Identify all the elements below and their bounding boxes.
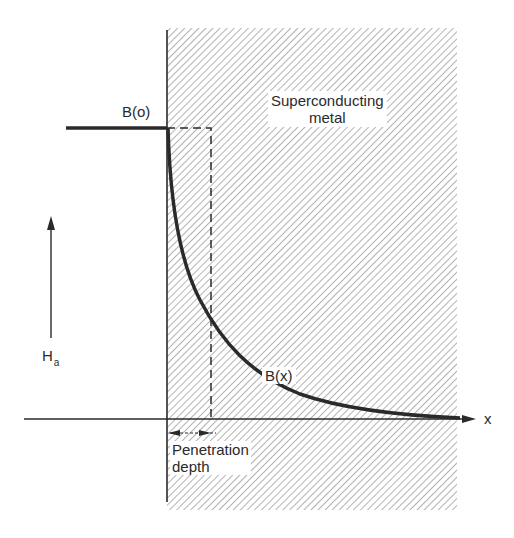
penetration-label-line2: depth <box>172 458 249 475</box>
region-label-line1: Superconducting <box>271 92 384 109</box>
applied-field-arrowhead-icon <box>47 216 55 230</box>
penetration-label-line1: Penetration <box>172 441 249 458</box>
surface-field-label: B(o) <box>122 104 150 119</box>
diagram-canvas <box>0 0 514 538</box>
x-axis-arrowhead-icon <box>462 415 476 423</box>
applied-field-label: Ha <box>42 348 59 363</box>
internal-field-label: B(x) <box>262 367 296 384</box>
penetration-depth-label: Penetration depth <box>170 441 251 475</box>
region-label: Superconducting metal <box>268 91 387 127</box>
applied-field-symbol: H <box>42 347 53 364</box>
x-axis-label: x <box>484 411 492 426</box>
region-label-line2: metal <box>271 109 384 126</box>
applied-field-subscript: a <box>54 357 60 368</box>
